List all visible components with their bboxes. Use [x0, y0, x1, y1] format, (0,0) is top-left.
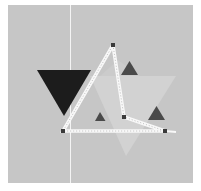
vertex-handle-top[interactable]	[111, 43, 115, 47]
puzzle-board-svg	[0, 0, 201, 191]
vertex-handle-left[interactable]	[61, 129, 65, 133]
puzzle-canvas	[0, 0, 201, 191]
vertex-handle-inner[interactable]	[122, 115, 126, 119]
vertex-handle-right[interactable]	[163, 129, 167, 133]
